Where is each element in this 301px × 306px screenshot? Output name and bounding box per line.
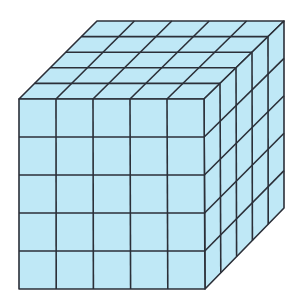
grid-line	[220, 83, 221, 272]
front-face	[19, 99, 205, 289]
grid-line	[167, 99, 168, 289]
grid-line	[236, 68, 237, 257]
grid-line	[130, 99, 131, 289]
cube-svg	[0, 0, 301, 306]
cube-diagram	[0, 0, 301, 306]
